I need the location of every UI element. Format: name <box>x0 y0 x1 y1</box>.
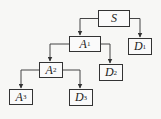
node-d3-subscript: 3 <box>84 94 88 102</box>
node-s: S <box>98 10 130 27</box>
edge-a1-d2 <box>101 44 110 63</box>
node-a1: A1 <box>69 36 101 52</box>
node-a2-label: A <box>46 63 53 78</box>
node-a1-subscript: 1 <box>87 40 91 48</box>
node-d1-label: D <box>134 39 143 54</box>
node-a1-label: A <box>80 37 87 52</box>
edge-a2-d3 <box>63 70 80 88</box>
node-s-label: S <box>111 11 117 26</box>
edge-a2-a3 <box>21 70 39 88</box>
node-d1-subscript: 1 <box>143 43 147 51</box>
node-d1: D1 <box>128 38 152 55</box>
node-d2-label: D <box>105 65 114 80</box>
edge-s-d1 <box>130 19 140 38</box>
node-d2-subscript: 2 <box>114 69 118 77</box>
node-a3: A3 <box>9 89 33 105</box>
node-a2-subscript: 2 <box>53 66 57 74</box>
node-a3-subscript: 3 <box>23 93 27 101</box>
node-a3-label: A <box>16 90 23 105</box>
node-d2: D2 <box>99 64 123 81</box>
edge-a1-a2 <box>50 44 69 61</box>
node-d3: D3 <box>69 89 93 106</box>
node-a2: A2 <box>39 62 63 78</box>
node-d3-label: D <box>75 90 84 105</box>
edge-s-a1 <box>80 19 98 36</box>
